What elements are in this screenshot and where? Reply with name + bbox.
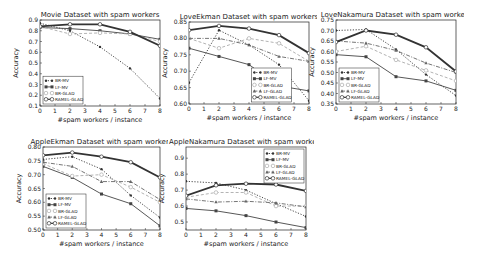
marker-circle: [253, 83, 257, 87]
y-axis-label: Accuracy: [15, 174, 23, 204]
marker-circle: [394, 58, 398, 62]
y-tick-label: 0.80: [28, 143, 42, 150]
legend-label: BR-GLAD: [276, 164, 296, 169]
marker-dot: [259, 71, 261, 73]
x-axis-label: #spam workers / instance: [59, 240, 144, 248]
y-tick-label: 0.35: [321, 100, 335, 107]
marker-circle: [394, 33, 398, 37]
y-tick-label: 0.60: [174, 100, 188, 107]
x-tick-label: 2: [214, 231, 218, 238]
legend-label: BR-MV: [263, 70, 277, 75]
x-tick-label: 6: [129, 231, 133, 238]
chart-love-nakamura: LoveNakamura Dataset with spam workers01…: [306, 6, 464, 128]
marker-circle: [214, 184, 218, 188]
y-tick-label: 0.70: [321, 27, 335, 34]
y-axis-label: Accuracy: [158, 174, 166, 204]
marker-triangle: [217, 37, 220, 40]
x-tick-label: 1: [53, 107, 57, 114]
y-tick-label: 0.3: [28, 81, 38, 88]
x-tick-label: 7: [143, 107, 147, 114]
marker-square: [48, 203, 51, 206]
y-tick-label: 0.8: [174, 170, 184, 177]
marker-square: [69, 27, 72, 30]
marker-circle: [68, 23, 72, 27]
chart-title: AppleEkman Dataset with spam workers: [31, 138, 168, 146]
chart-apple-nakamura: AppleNakamura Dataset with spam workers0…: [156, 133, 314, 254]
x-tick-label: 7: [292, 105, 296, 112]
marker-dot: [335, 29, 337, 31]
marker-dot: [305, 215, 307, 217]
x-tick-label: 1: [56, 231, 60, 238]
x-tick-label: 5: [409, 105, 413, 112]
x-tick-label: 0: [334, 105, 338, 112]
marker-circle: [98, 31, 102, 35]
x-tick-label: 3: [85, 231, 89, 238]
marker-square: [51, 85, 54, 88]
chart-movie: Movie Dataset with spam workers012345678…: [10, 6, 168, 130]
x-axis-label: #spam workers / instance: [58, 116, 143, 124]
x-tick-label: 5: [262, 105, 266, 112]
y-tick-label: 0.65: [28, 185, 42, 192]
marker-dot: [71, 155, 73, 157]
marker-dot: [100, 168, 102, 170]
legend-label: LF-GLAD: [276, 170, 295, 175]
x-tick-label: 5: [113, 107, 117, 114]
marker-circle: [184, 194, 188, 198]
y-tick-label: 0.75: [321, 16, 335, 23]
x-tick-label: 4: [247, 105, 251, 112]
marker-square: [341, 77, 344, 80]
y-tick-label: 0.7: [28, 38, 38, 45]
marker-triangle: [424, 61, 427, 64]
marker-triangle: [364, 41, 367, 44]
marker-circle: [70, 151, 74, 155]
x-tick-label: 5: [259, 231, 263, 238]
legend: BR-MVLF-MVBR-GLADLF-GLADRAMEL-GLAD: [264, 149, 305, 183]
marker-dot: [347, 71, 349, 73]
marker-dot: [188, 81, 190, 83]
x-tick-label: 8: [454, 105, 458, 112]
marker-circle: [271, 164, 275, 168]
x-tick-label: 5: [114, 231, 118, 238]
marker-circle: [129, 160, 133, 164]
x-tick-label: 0: [187, 105, 191, 112]
marker-square: [129, 202, 132, 205]
marker-square: [185, 207, 188, 210]
x-tick-label: 8: [304, 231, 308, 238]
marker-dot: [185, 180, 187, 182]
legend-label: RAMEL-GLAD: [55, 97, 84, 102]
y-tick-label: 0.80: [174, 34, 188, 41]
legend-label: BR-MV: [58, 196, 72, 201]
marker-square: [245, 214, 248, 217]
marker-dot: [48, 197, 50, 199]
marker-dot: [45, 80, 47, 82]
marker-circle: [247, 37, 251, 41]
marker-circle: [424, 46, 428, 50]
marker-circle: [340, 83, 344, 87]
y-tick-label: 0.65: [321, 37, 335, 44]
legend-label: BR-MV: [351, 70, 365, 75]
legend-label: BR-GLAD: [58, 209, 78, 214]
marker-square: [395, 75, 398, 78]
legend-label: LF-GLAD: [58, 215, 77, 220]
marker-dot: [51, 80, 53, 82]
legend-label: LF-MV: [351, 76, 364, 81]
marker-circle: [271, 177, 275, 181]
y-tick-label: 0.85: [174, 18, 188, 25]
x-tick-label: 1: [202, 105, 206, 112]
marker-circle: [47, 209, 51, 213]
marker-dot: [54, 197, 56, 199]
x-tick-label: 4: [394, 105, 398, 112]
marker-circle: [53, 209, 57, 213]
marker-circle: [217, 46, 221, 50]
marker-dot: [266, 152, 268, 154]
series-br-glad: [184, 191, 308, 208]
legend-label: BR-GLAD: [55, 91, 75, 96]
marker-circle: [217, 24, 221, 28]
legend-label: BR-MV: [55, 78, 69, 83]
y-tick-label: 0.1: [28, 102, 38, 109]
marker-square: [347, 77, 350, 80]
marker-circle: [44, 98, 48, 102]
y-tick-label: 0.60: [28, 198, 42, 205]
marker-circle: [454, 79, 458, 83]
x-axis-label: #spam workers / instance: [207, 114, 292, 122]
